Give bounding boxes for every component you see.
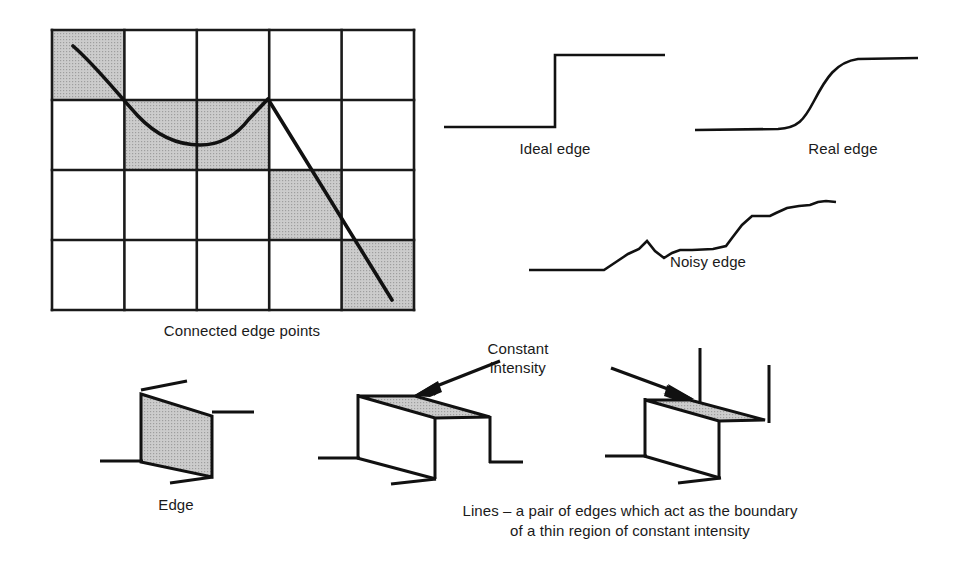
edge-bottom-tick bbox=[170, 477, 213, 483]
edge-face bbox=[141, 394, 212, 477]
lines-left-base-slope bbox=[357, 458, 436, 479]
constant-intensity-arrows bbox=[413, 361, 694, 401]
real-edge-sigmoid bbox=[695, 58, 918, 130]
caption-ideal-edge: Ideal edge bbox=[519, 140, 590, 157]
caption-noisy-edge: Noisy edge bbox=[670, 253, 746, 270]
caption-constant-intensity-line1: Constant bbox=[488, 340, 549, 357]
real-edge-panel bbox=[695, 58, 918, 130]
caption-constant-intensity-line2: intensity bbox=[490, 359, 546, 376]
lines-right-base-slope bbox=[644, 456, 720, 478]
arrow-left bbox=[413, 361, 500, 397]
caption-lines-line2: of a thin region of constant intensity bbox=[510, 522, 750, 539]
figure-root: Connected edge points Ideal edge Real ed… bbox=[0, 0, 960, 579]
edge-top-tick bbox=[141, 381, 187, 390]
caption-lines-line1: Lines – a pair of edges which act as the… bbox=[462, 502, 797, 519]
edge-solid-panel bbox=[100, 381, 254, 483]
lines-left-top-face bbox=[358, 396, 490, 418]
ideal-edge-step bbox=[444, 55, 665, 127]
lines-right-bottom-tick bbox=[678, 478, 721, 483]
lines-solid-right-panel bbox=[605, 348, 769, 483]
lines-solid-left-panel bbox=[318, 394, 523, 484]
connected-edge-points-panel bbox=[52, 30, 414, 310]
lines-left-bottom-tick bbox=[391, 479, 436, 484]
figure-canvas bbox=[0, 0, 960, 579]
grid-cell-r2c3 bbox=[269, 170, 341, 240]
caption-connected-edge-points: Connected edge points bbox=[164, 322, 320, 339]
lines-right-top-face bbox=[645, 400, 765, 421]
arrow-right bbox=[611, 368, 694, 401]
caption-edge: Edge bbox=[158, 496, 193, 513]
caption-real-edge: Real edge bbox=[808, 140, 877, 157]
ideal-edge-panel bbox=[444, 55, 665, 127]
